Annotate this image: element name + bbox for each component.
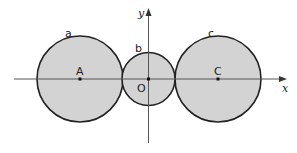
point-o	[147, 78, 150, 81]
point-a-label: A	[76, 65, 84, 78]
point-c-label: C	[214, 65, 222, 78]
circle-a-label: a	[65, 27, 72, 40]
x-axis-label: x	[282, 82, 289, 95]
y-axis-label: y	[137, 7, 145, 20]
circle-c-label: c	[208, 27, 214, 40]
circle-b-label: b	[135, 42, 142, 55]
y-axis-arrow-icon	[146, 8, 152, 16]
circles-diagram: a A b O c C x y	[0, 0, 297, 153]
origin-label: O	[137, 82, 146, 95]
